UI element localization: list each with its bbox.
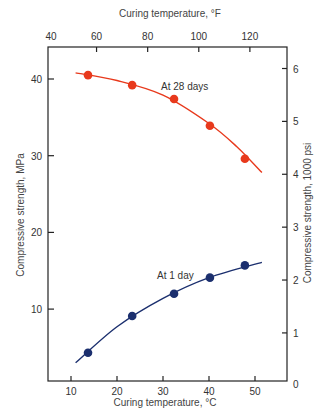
x-top-tick-label: 100 (190, 31, 207, 42)
series-label-28-days: At 28 days (161, 81, 208, 92)
data-point (170, 289, 179, 298)
x-axis-bottom-title: Curing temperature, °C (114, 397, 217, 408)
y-tick-label: 30 (31, 151, 43, 162)
x-axis-bottom-ticks: 1020304050 (65, 376, 261, 397)
data-point (128, 312, 137, 321)
y-axis-right-title: Compressive strength, 1000 psi (302, 143, 313, 284)
y-tick-label: 10 (31, 304, 43, 315)
y-right-tick-label: 0 (293, 379, 299, 390)
data-point (128, 81, 137, 90)
x-top-tick-label: 40 (45, 31, 57, 42)
y-axis-left-ticks: 10203040 (31, 74, 54, 315)
data-point (84, 71, 93, 80)
x-tick-label: 30 (157, 386, 169, 397)
data-point (241, 261, 250, 270)
y-right-tick-label: 3 (293, 222, 299, 233)
chart: 1020304050 406080100120 10203040 0123456… (0, 0, 327, 420)
data-point (84, 349, 93, 358)
data-point (206, 121, 215, 130)
y-right-tick-label: 6 (293, 64, 299, 75)
x-tick-label: 40 (203, 386, 215, 397)
y-right-tick-label: 4 (293, 169, 299, 180)
data-point (170, 95, 179, 104)
y-tick-label: 20 (31, 227, 43, 238)
x-tick-label: 10 (65, 386, 77, 397)
x-top-tick-label: 120 (242, 31, 259, 42)
x-tick-label: 50 (249, 386, 261, 397)
y-right-tick-label: 5 (293, 116, 299, 127)
y-axis-right-ticks: 0123456 (282, 64, 299, 390)
x-axis-top-title: Curing temperature, °F (119, 8, 221, 19)
x-axis-top-ticks: 406080100120 (45, 31, 258, 52)
data-point (241, 154, 250, 163)
y-tick-label: 40 (31, 74, 43, 85)
y-axis-left-title: Compressive strength, MPa (15, 153, 26, 277)
series-label-1-day: At 1 day (157, 270, 194, 281)
series-layer (76, 71, 262, 363)
x-top-tick-label: 80 (142, 31, 154, 42)
y-right-tick-label: 1 (293, 328, 299, 339)
y-right-tick-label: 2 (293, 275, 299, 286)
data-point (206, 273, 215, 282)
x-top-tick-label: 60 (91, 31, 103, 42)
x-tick-label: 20 (111, 386, 123, 397)
